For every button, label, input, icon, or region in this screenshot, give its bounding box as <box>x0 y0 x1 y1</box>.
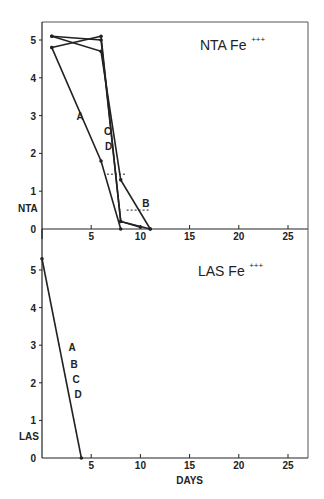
panel-title: LAS Fe <box>198 263 245 279</box>
series-annotation: C <box>104 126 111 137</box>
x-tick-label: 15 <box>184 460 196 471</box>
series-annotation: C <box>73 374 80 385</box>
data-point <box>80 456 84 460</box>
y-tick-label: 5 <box>30 35 36 46</box>
data-point <box>50 46 54 50</box>
series-annotation: B <box>142 198 149 209</box>
y-tick-label: 1 <box>30 186 36 197</box>
series-line <box>52 48 121 229</box>
y-tick-label: 2 <box>30 378 36 389</box>
y-axis-label: NTA <box>18 203 38 214</box>
series-annotation: D <box>74 389 81 400</box>
y-tick-label: 3 <box>30 340 36 351</box>
title-superscript: +++ <box>251 35 265 44</box>
x-tick-label: 5 <box>88 460 94 471</box>
data-point <box>139 225 143 229</box>
y-tick-label: 4 <box>30 303 36 314</box>
title-superscript: +++ <box>249 261 263 270</box>
x-axis-label: DAYS <box>176 475 203 486</box>
series-annotation: A <box>76 111 83 122</box>
y-tick-label: 0 <box>30 224 36 235</box>
x-tick-label: 5 <box>88 231 94 242</box>
data-point <box>119 178 123 182</box>
series-annotation: A <box>69 342 76 353</box>
x-tick-label: 15 <box>184 231 196 242</box>
chart-figure: 510152025012345NTANTA Fe+++ACDB 51015202… <box>0 0 324 499</box>
series-line <box>52 36 150 229</box>
x-tick-label: 25 <box>282 460 294 471</box>
x-tick-label: 10 <box>135 460 147 471</box>
y-tick-label: 2 <box>30 148 36 159</box>
data-point <box>119 227 123 231</box>
nta-panel: 510152025012345NTANTA Fe+++ACDB <box>18 22 308 242</box>
y-tick-label: 1 <box>30 415 36 426</box>
y-tick-label: 5 <box>30 265 36 276</box>
data-point <box>50 34 54 38</box>
data-point <box>99 34 103 38</box>
las-panel: 510152025012345LASDAYSLAS Fe+++ABCD <box>19 229 308 486</box>
data-point <box>148 227 152 231</box>
y-tick-label: 4 <box>30 73 36 84</box>
y-tick-label: 3 <box>30 111 36 122</box>
panel-title: NTA Fe <box>200 37 247 53</box>
series-annotation: D <box>105 141 112 152</box>
x-tick-label: 10 <box>135 231 147 242</box>
data-point <box>99 159 103 163</box>
x-tick-label: 20 <box>233 231 245 242</box>
series-line <box>52 36 141 227</box>
x-tick-label: 25 <box>282 231 294 242</box>
series-annotation: B <box>71 359 78 370</box>
y-tick-label: 0 <box>30 453 36 464</box>
y-axis-label: LAS <box>19 431 39 442</box>
data-point <box>119 220 123 224</box>
series-line <box>52 36 150 229</box>
data-point <box>40 257 44 261</box>
x-tick-label: 20 <box>233 460 245 471</box>
